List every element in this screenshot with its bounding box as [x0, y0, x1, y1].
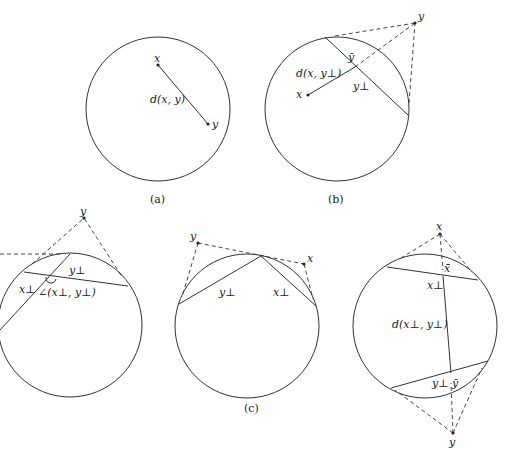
- panel-b: x y ȳ y⊥ d(x, y⊥) (b): [265, 10, 425, 206]
- tangent-y-left: [395, 390, 453, 433]
- label-ybar: ȳ: [451, 377, 459, 390]
- tangent-right: [84, 218, 121, 275]
- label-yperp: y⊥: [68, 264, 86, 277]
- point-x: [306, 93, 309, 96]
- label-y: y: [79, 205, 87, 218]
- tangent-right: [409, 23, 415, 103]
- label-xperp: x⊥: [427, 279, 444, 292]
- panel-c-right: x x̄ x⊥ d(x⊥, y⊥) y⊥ ȳ y: [353, 220, 497, 449]
- label-y: y: [448, 436, 456, 449]
- panel-c-middle: y x y⊥ x⊥ (c): [175, 230, 319, 415]
- label-angle: ∠(x⊥, y⊥): [38, 286, 96, 299]
- point-y: [451, 431, 454, 434]
- tangent-x: [304, 264, 313, 299]
- line-y-ybar: [451, 383, 453, 433]
- circle-c-middle: [175, 254, 319, 398]
- tangent-y: [182, 243, 198, 297]
- label-ybar: ȳ: [347, 51, 355, 64]
- label-distance: d(x, y⊥): [296, 67, 341, 80]
- label-yperp: y⊥: [431, 377, 449, 390]
- label-x: x: [154, 52, 161, 65]
- label-xperp: x⊥: [19, 283, 36, 296]
- diagram-canvas: x y d(x, y) (a) x y ȳ y⊥ d(x, y⊥) (b) y …: [0, 0, 515, 450]
- line-ybar-y: [355, 23, 415, 67]
- caption-c: (c): [244, 402, 259, 415]
- label-x: x: [296, 88, 303, 101]
- label-yperp: y⊥: [352, 80, 370, 93]
- tangent-top: [335, 23, 415, 36]
- label-yperp: y⊥: [218, 286, 236, 299]
- tangent-left: [32, 218, 84, 264]
- point-x: [302, 262, 305, 265]
- label-xperp: x⊥: [273, 286, 290, 299]
- line-x-xbar: [440, 234, 443, 270]
- point-y: [206, 122, 209, 125]
- panel-a: x y d(x, y) (a): [86, 37, 230, 206]
- panel-c-left: y x⊥ y⊥ ∠(x⊥, y⊥): [0, 205, 142, 397]
- tangent-x-left: [398, 234, 440, 260]
- label-x: x: [436, 220, 443, 233]
- circle-b: [265, 37, 409, 181]
- caption-b: (b): [328, 193, 344, 206]
- label-distance: d(x, y): [150, 93, 185, 106]
- point-y: [413, 21, 416, 24]
- label-xbar: x̄: [444, 262, 451, 275]
- point-y: [196, 241, 199, 244]
- label-y: y: [189, 230, 197, 243]
- caption-a: (a): [150, 193, 165, 206]
- label-y: y: [211, 118, 219, 131]
- label-y: y: [417, 10, 425, 23]
- label-x: x: [307, 252, 314, 265]
- label-distance: d(x⊥, y⊥): [392, 318, 448, 331]
- line-y-x: [198, 243, 304, 264]
